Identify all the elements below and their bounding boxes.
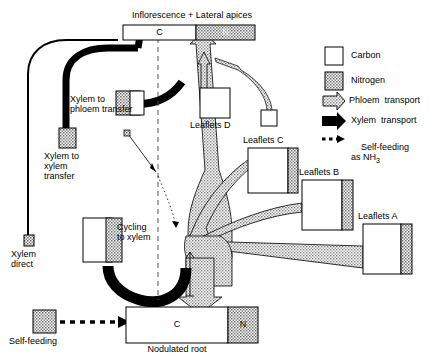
legend-label-nitrogen: Nitrogen [351, 75, 385, 85]
inflorescence-c-letter: C [123, 27, 196, 37]
self-feeding-box [33, 310, 56, 333]
xylem-to-xylem-path [66, 48, 138, 128]
cycling-dotted-arrowhead [172, 221, 179, 228]
legend-selffeeding-swatch [322, 135, 345, 143]
legend-selffeeding-text: Self-feeding as NH [351, 142, 409, 162]
legend-label-xylem: Xylem transport [351, 115, 417, 125]
legend-carbon-swatch [325, 47, 343, 65]
legend-label-selffeeding: Self-feeding as NH3 [351, 132, 409, 176]
legend-label-phloem: Phloem transport [349, 95, 420, 105]
transfer-leader-arrowhead [150, 163, 156, 172]
xylem-to-xylem-transfer-box [59, 128, 76, 148]
self-feeding-arrow [50, 316, 130, 328]
inflorescence-label: Inflorescence + Lateral apices [112, 10, 272, 20]
legend-phloem-swatch [323, 92, 345, 110]
self-feeding-label: Self-feeding [9, 336, 57, 346]
xylem-direct-marker [24, 235, 34, 246]
cycling-dotted-leader [158, 176, 176, 228]
xylem-cycling-arc [108, 266, 186, 302]
legend-selffeeding-sub: 3 [376, 157, 380, 164]
cycling-to-xylem-label: Cycling to xylem [117, 222, 151, 242]
legend-label-carbon: Carbon [351, 50, 381, 60]
xylem-to-phloem-label: Xylem to phloem transfer [70, 94, 133, 114]
leaflets-a-box [363, 224, 412, 274]
nodulated-root-c-letter: C [126, 319, 228, 329]
nodulated-root-label: Nodulated root [126, 344, 228, 354]
leaflets-c-box [248, 148, 298, 193]
nodulated-root-n-letter: N [228, 319, 258, 329]
transfer-point-marker [124, 130, 130, 136]
leaflets-small-box [261, 110, 277, 126]
legend-swatches [322, 47, 346, 143]
leaflets-d-label: Leaflets D [190, 120, 231, 130]
xylem-to-phloem-path [138, 82, 182, 104]
inflorescence-n-letter: N [196, 27, 255, 37]
figure-canvas: Inflorescence + Lateral apices C N Nodul… [0, 0, 441, 359]
leaflets-b-label: Leaflets B [299, 167, 339, 177]
legend-nitrogen-swatch [325, 72, 343, 90]
leaflets-c-label: Leaflets C [243, 135, 284, 145]
leaflets-d-box [200, 88, 230, 118]
leaflets-b-box [302, 180, 353, 230]
xylem-direct-label: Xylem direct [11, 249, 36, 269]
leaflets-a-label: Leaflets A [358, 211, 398, 221]
legend-xylem-swatch [322, 112, 346, 130]
xylem-to-xylem-label: Xylem to xylem transfer [44, 151, 79, 181]
